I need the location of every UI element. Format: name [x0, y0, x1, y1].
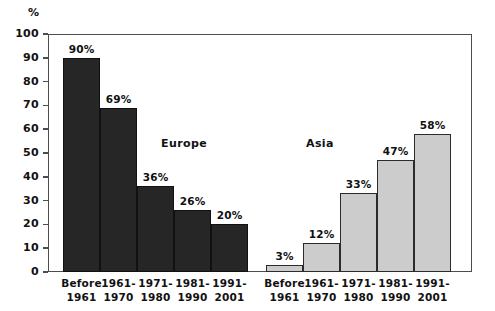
bar-value-label: 26%: [168, 195, 217, 207]
y-axis-tick-label: 50: [23, 145, 39, 160]
y-axis-tick-label: 40: [23, 169, 39, 184]
y-axis-tick-label: 30: [23, 193, 39, 208]
y-axis-unit-label: %: [28, 6, 39, 19]
y-axis-tick-label: 10: [23, 240, 39, 255]
bar-value-label: 69%: [94, 93, 143, 105]
bar-value-label: 90%: [57, 43, 106, 55]
y-axis-tick-label: 90: [23, 50, 39, 65]
bar-chart: % 010203040506070809010090%Before196169%…: [0, 0, 495, 311]
bar-asia-3: [377, 160, 414, 272]
y-axis-tick-mark: [43, 57, 48, 59]
y-axis-tick-label: 80: [23, 74, 39, 89]
y-axis-tick-label: 100: [15, 26, 39, 41]
series-label-asia: Asia: [306, 137, 334, 150]
bar-asia-4: [414, 134, 451, 272]
bar-value-label: 58%: [408, 119, 457, 131]
y-axis-tick-mark: [43, 33, 48, 35]
y-axis-tick-label: 20: [23, 216, 39, 231]
y-axis-tick-label: 0: [31, 264, 39, 279]
x-axis-category-label: 1991-2001: [408, 276, 457, 304]
x-axis-category-label: 1991-2001: [205, 276, 254, 304]
x-label-line-1: 1991-: [415, 277, 450, 289]
y-axis-tick-mark: [43, 105, 48, 107]
bar-value-label: 36%: [131, 171, 180, 183]
x-label-line-2: 2001: [408, 290, 457, 304]
y-axis-tick-mark: [43, 176, 48, 178]
y-axis-tick-mark: [43, 200, 48, 202]
y-axis-tick-mark: [43, 224, 48, 226]
bar-asia-0: [266, 265, 303, 272]
y-axis-tick-mark: [43, 152, 48, 154]
x-label-line-1: 1991-: [212, 277, 247, 289]
bar-asia-1: [303, 243, 340, 272]
bar-europe-0: [63, 58, 100, 272]
bar-value-label: 3%: [260, 250, 309, 262]
bar-value-label: 20%: [205, 209, 254, 221]
bar-europe-1: [100, 108, 137, 272]
y-axis-tick-mark: [43, 271, 48, 273]
y-axis-tick-label: 70: [23, 97, 39, 112]
bar-value-label: 12%: [297, 228, 346, 240]
bar-value-label: 33%: [334, 178, 383, 190]
bar-europe-4: [211, 224, 248, 272]
y-axis-tick-label: 60: [23, 121, 39, 136]
y-axis-tick-mark: [43, 128, 48, 130]
bar-asia-2: [340, 193, 377, 272]
y-axis-tick-mark: [43, 247, 48, 249]
y-axis-tick-mark: [43, 81, 48, 83]
series-label-europe: Europe: [161, 137, 207, 150]
x-label-line-2: 2001: [205, 290, 254, 304]
bar-value-label: 47%: [371, 145, 420, 157]
